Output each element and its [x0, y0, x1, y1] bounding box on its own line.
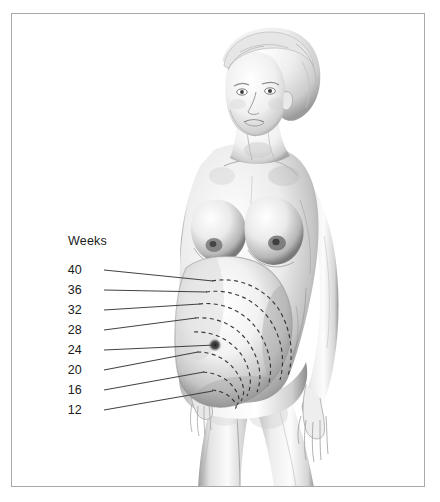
fundal-height-illustration: Weeks 4036322824201612	[0, 0, 440, 502]
week-label-20: 20	[52, 364, 82, 377]
week-labels-group: 4036322824201612	[0, 0, 440, 502]
week-label-28: 28	[52, 324, 82, 337]
week-label-16: 16	[52, 384, 82, 397]
week-label-12: 12	[52, 404, 82, 417]
week-label-32: 32	[52, 304, 82, 317]
week-label-40: 40	[52, 264, 82, 277]
week-label-36: 36	[52, 284, 82, 297]
week-label-24: 24	[52, 344, 82, 357]
